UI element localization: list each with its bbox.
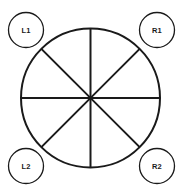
corner-node-l2-label: L2 [21,162,30,171]
center-hub-dot [88,96,92,100]
corner-node-r2-label: R2 [152,162,162,171]
wheel-diagram: L1 R1 L2 R2 [0,0,184,192]
corner-node-l1[interactable]: L1 [9,13,44,48]
corner-node-r1[interactable]: R1 [140,13,175,48]
corner-node-r1-label: R1 [152,26,162,35]
corner-node-l2[interactable]: L2 [9,149,44,184]
corner-node-r2[interactable]: R2 [140,149,175,184]
diagram-canvas: L1 R1 L2 R2 [0,0,184,192]
corner-node-l1-label: L1 [21,26,30,35]
